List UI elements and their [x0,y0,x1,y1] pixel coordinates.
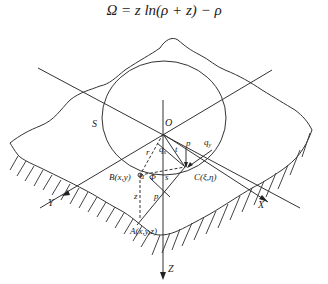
label-point-b: B(x,y) [109,172,131,182]
surface-outline [10,38,312,235]
half-space-diagram: S O B(x,y) C(ξ,η) A(x,y,z) X Y Z p p qx … [0,0,328,284]
label-qy: qy [204,137,212,148]
label-axis-z: Z [168,263,174,274]
label-origin: O [165,117,172,128]
label-axis-y: Y [48,197,55,208]
label-s-dist: s [165,172,169,182]
label-z-depth: z [133,191,138,201]
label-r: r [146,147,150,157]
label-alpha: α [140,172,145,181]
label-s: S [92,118,97,129]
label-t: t [175,144,178,154]
label-point-a: A(x,y,z) [129,226,157,236]
loaded-area-s [102,61,226,175]
label-p-top: p [185,138,191,148]
label-point-c: C(ξ,η) [194,172,217,182]
label-qx: qx [159,144,167,155]
label-phi: Φ [149,172,156,182]
label-p-bottom: p [153,191,159,201]
label-axis-x: X [257,199,265,210]
